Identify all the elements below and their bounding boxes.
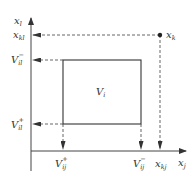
y-tick-xkl: xkl — [13, 29, 25, 42]
region-label: Vi — [96, 86, 105, 99]
x-tick-vij-minus: Vij− — [133, 155, 146, 171]
region-projections — [33, 60, 141, 149]
axes — [31, 18, 186, 171]
x-tick-xkj: xkj — [155, 158, 167, 171]
hyperrectangle-projection-diagram: xl xj xk xkl Vil− Vil+ Vij+ Vij− xkj Vi — [0, 0, 195, 177]
y-tick-vil-minus: Vil− — [11, 51, 24, 67]
x-axis-label: xj — [178, 157, 186, 170]
point-marker — [158, 33, 162, 37]
x-tick-vij-plus: Vij+ — [55, 155, 68, 171]
y-tick-vil-plus: Vil+ — [11, 116, 24, 132]
point-label: xk — [166, 29, 176, 42]
y-axis-label: xl — [14, 15, 22, 28]
